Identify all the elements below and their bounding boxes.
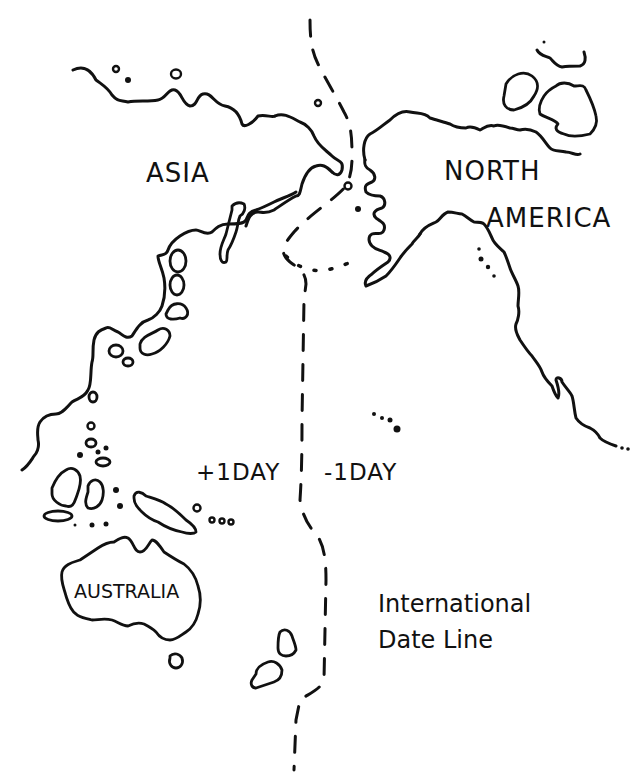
small-island bbox=[220, 519, 225, 524]
bering-island-dot bbox=[355, 206, 361, 212]
international-date-line bbox=[283, 20, 352, 770]
arctic-island bbox=[171, 70, 181, 79]
label-asia: ASIA bbox=[146, 160, 210, 186]
small-island-dot bbox=[117, 503, 123, 509]
new-zealand-south-island bbox=[251, 661, 282, 688]
hawaii-island-dot bbox=[372, 412, 376, 416]
north-america-alaska-west-coast bbox=[365, 160, 420, 286]
small-island bbox=[89, 392, 97, 402]
label-north-america-line1: NORTH bbox=[444, 158, 541, 184]
korea-island bbox=[109, 345, 123, 357]
arctic-island-dot bbox=[125, 77, 131, 83]
date-line-map bbox=[0, 0, 634, 783]
sulawesi-island bbox=[86, 480, 104, 509]
arctic-island-greenland bbox=[539, 83, 596, 136]
japan-island-3 bbox=[166, 304, 188, 319]
japan-island-4 bbox=[140, 328, 170, 354]
label-north-america-line2: AMERICA bbox=[486, 205, 611, 231]
arctic-island-dot bbox=[543, 41, 546, 44]
small-island bbox=[210, 518, 215, 523]
asia-northeast-coastline bbox=[275, 115, 342, 175]
arctic-island bbox=[315, 100, 321, 106]
small-island-dot bbox=[96, 450, 101, 455]
small-island-dot bbox=[74, 524, 77, 527]
java-island bbox=[44, 511, 72, 521]
bering-island bbox=[345, 183, 352, 190]
north-america-gulf-coast bbox=[420, 212, 616, 446]
small-island-dot bbox=[90, 523, 95, 528]
small-island bbox=[96, 458, 110, 466]
japan-island-2 bbox=[170, 275, 184, 295]
small-island bbox=[86, 439, 96, 447]
borneo-island bbox=[52, 468, 81, 506]
small-island bbox=[229, 520, 234, 525]
hawaii-island-dot bbox=[388, 418, 393, 423]
tasmania-island bbox=[169, 654, 182, 668]
coastal-island-dot bbox=[492, 274, 496, 278]
label-australia: AUSTRALIA bbox=[74, 582, 179, 601]
asia-north-coastline bbox=[73, 68, 275, 126]
small-island bbox=[123, 358, 133, 366]
coastal-island-dot bbox=[479, 257, 484, 262]
japan-island-1 bbox=[170, 250, 186, 272]
small-island-dot bbox=[77, 452, 83, 458]
small-island bbox=[194, 505, 201, 512]
mexico-island-dot bbox=[626, 447, 630, 451]
small-island-dot bbox=[104, 446, 109, 451]
arctic-island bbox=[113, 66, 119, 72]
label-minus-one-day: -1DAY bbox=[324, 461, 397, 484]
hawaii-island-dot bbox=[380, 416, 384, 420]
small-island-dot bbox=[104, 522, 109, 527]
new-zealand-north-island bbox=[278, 630, 296, 656]
legend-title-line2: Date Line bbox=[378, 628, 493, 652]
arctic-island-victoria bbox=[503, 73, 537, 110]
small-island bbox=[88, 423, 95, 430]
coastal-island-dot bbox=[477, 247, 481, 251]
label-plus-one-day: +1DAY bbox=[196, 461, 280, 484]
sakhalin-island bbox=[220, 203, 245, 263]
aleutian-islands-chain bbox=[286, 256, 360, 271]
mexico-island-dot bbox=[620, 446, 624, 450]
small-island-dot bbox=[113, 487, 119, 493]
new-guinea-island bbox=[134, 492, 196, 533]
coastal-island-dot bbox=[486, 265, 490, 269]
hawaii-island-dot bbox=[394, 426, 401, 433]
arctic-island-baffin bbox=[537, 50, 585, 67]
legend-title-line1: International bbox=[378, 592, 531, 616]
